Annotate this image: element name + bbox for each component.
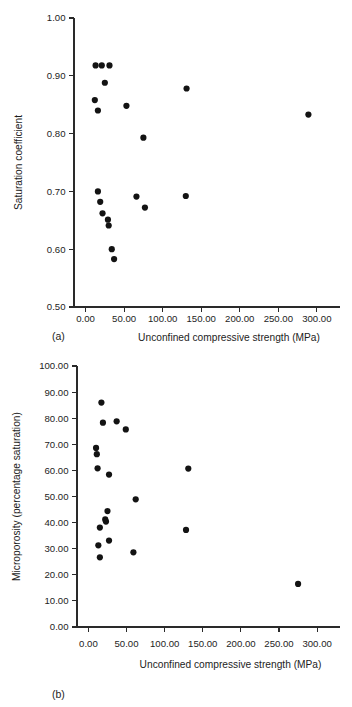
x-tick-label: 100.00 <box>150 638 179 649</box>
x-tick-label: 0.00 <box>76 313 95 324</box>
x-tick-label: 250.00 <box>264 638 293 649</box>
y-tick-label: 0.50 <box>47 301 66 312</box>
x-tick-label: 300.00 <box>302 313 331 324</box>
data-point <box>305 111 311 117</box>
x-tick-label: 250.00 <box>264 313 293 324</box>
data-point <box>133 194 139 200</box>
data-point <box>100 420 106 426</box>
y-tick-label: 80.00 <box>44 413 68 424</box>
data-point <box>111 256 117 262</box>
data-point <box>133 496 139 502</box>
y-tick-label: 0.60 <box>47 244 66 255</box>
y-tick-label: 1.00 <box>47 12 66 23</box>
y-tick-label: 0.80 <box>47 128 66 139</box>
x-tick-label: 300.00 <box>302 638 331 649</box>
y-axis-title: Microporosity (percentage saturation) <box>11 412 22 581</box>
data-point <box>104 508 110 514</box>
y-tick-label: 90.00 <box>44 387 68 398</box>
scatter-plot-saturation-coefficient: 0.500.600.700.800.901.000.0050.00100.001… <box>0 0 352 350</box>
axis-lines <box>74 18 340 307</box>
axis-lines <box>77 366 340 627</box>
data-point <box>95 188 101 194</box>
data-point <box>183 527 189 533</box>
data-point <box>109 246 115 252</box>
data-point-group <box>93 399 301 587</box>
y-tick-label: 60.00 <box>44 465 68 476</box>
data-point <box>140 135 146 141</box>
data-point <box>95 542 101 548</box>
panel-label: (b) <box>52 688 65 700</box>
data-point <box>103 518 109 524</box>
y-tick-label: 70.00 <box>44 439 68 450</box>
data-point <box>92 62 98 68</box>
panel-label: (a) <box>52 330 65 342</box>
data-point <box>106 62 112 68</box>
data-point <box>99 210 105 216</box>
data-point <box>106 538 112 544</box>
data-point <box>94 465 100 471</box>
x-axis-title: Unconfined compressive strength (MPa) <box>138 332 320 343</box>
x-tick-label: 50.00 <box>115 638 139 649</box>
y-tick-label: 0.00 <box>50 621 69 632</box>
y-tick-label: 40.00 <box>44 517 68 528</box>
y-tick-label: 0.90 <box>47 70 66 81</box>
data-point <box>98 399 104 405</box>
data-point <box>92 97 98 103</box>
chart-panel-b: 0.0010.0020.0030.0040.0050.0060.0070.008… <box>0 350 352 707</box>
data-point <box>114 418 120 424</box>
data-point <box>94 451 100 457</box>
x-tick-label: 0.00 <box>79 638 98 649</box>
x-tick-label: 150.00 <box>187 313 216 324</box>
y-tick-label: 100.00 <box>39 360 68 371</box>
data-point <box>99 62 105 68</box>
x-tick-label: 200.00 <box>225 313 254 324</box>
data-point <box>183 193 189 199</box>
y-tick-label: 10.00 <box>44 595 68 606</box>
data-point <box>123 103 129 109</box>
x-tick-label: 150.00 <box>188 638 217 649</box>
data-point <box>106 471 112 477</box>
data-point <box>102 80 108 86</box>
data-point <box>105 217 111 223</box>
data-point <box>95 107 101 113</box>
data-point-group <box>92 62 312 262</box>
scatter-plot-microporosity: 0.0010.0020.0030.0040.0050.0060.0070.008… <box>0 350 352 707</box>
data-point <box>93 445 99 451</box>
x-axis-title: Unconfined compressive strength (MPa) <box>140 659 322 670</box>
data-point <box>97 199 103 205</box>
data-point <box>97 554 103 560</box>
y-tick-label: 20.00 <box>44 569 68 580</box>
data-point <box>183 85 189 91</box>
data-point <box>185 465 191 471</box>
data-point <box>123 426 129 432</box>
data-point <box>295 581 301 587</box>
x-tick-label: 50.00 <box>112 313 136 324</box>
x-tick-label: 200.00 <box>226 638 255 649</box>
y-axis-title: Saturation coefficient <box>13 115 24 210</box>
y-tick-label: 30.00 <box>44 543 68 554</box>
chart-panel-a: 0.500.600.700.800.901.000.0050.00100.001… <box>0 0 352 350</box>
data-point <box>142 204 148 210</box>
data-point <box>106 222 112 228</box>
y-tick-label: 0.70 <box>47 186 66 197</box>
y-tick-label: 50.00 <box>44 491 68 502</box>
data-point <box>130 549 136 555</box>
x-tick-label: 100.00 <box>148 313 177 324</box>
data-point <box>97 524 103 530</box>
